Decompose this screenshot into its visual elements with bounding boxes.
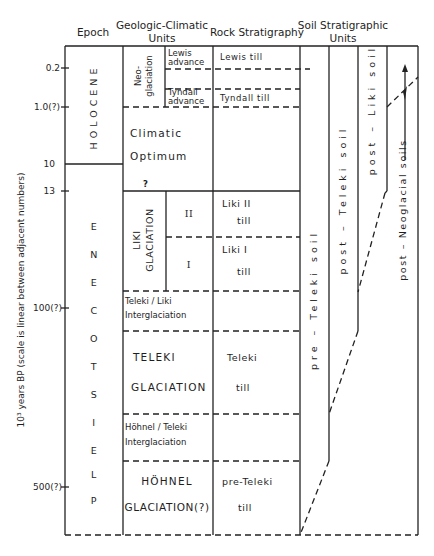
svg-text:I: I — [92, 417, 95, 428]
hohnel-teleki-2: Interglaciation — [125, 437, 186, 447]
liki-glaciation-2: GLACIATION — [144, 208, 155, 272]
question-mark: ? — [143, 179, 148, 189]
header-epoch: Epoch — [77, 26, 109, 38]
hohnel-teleki-1: Höhnel / Teleki — [125, 422, 187, 432]
hohnel-glaciation-2: GLACIATION(?) — [124, 501, 209, 513]
svg-text:L: L — [91, 469, 97, 480]
epoch-pleistocene: E N E C O T S I E L P — [90, 221, 98, 506]
teleki-glaciation-1: TELEKI — [132, 351, 176, 363]
tick-500: 500(?) — [33, 482, 62, 492]
tick-13: 13 — [44, 186, 55, 196]
svg-text:N: N — [90, 249, 98, 260]
liki-ii-till-2: till — [237, 215, 251, 226]
liki-glaciation-1: LIKI — [131, 230, 142, 250]
neo-line1: Neo- — [133, 66, 143, 86]
post-neoglacial-soils: post – Neoglacial soils — [397, 139, 408, 281]
svg-text:T: T — [90, 361, 97, 372]
teleki-liki-2: Interglaciation — [125, 310, 186, 320]
pre-teleki-till-1: pre-Teleki — [222, 476, 273, 487]
svg-text:E: E — [91, 445, 98, 456]
svg-text:S: S — [91, 389, 98, 400]
y-axis-label: 10³ years BP (scale is linear between ad… — [16, 173, 26, 428]
tick-10: 10 — [44, 159, 56, 169]
svg-text:C: C — [90, 305, 97, 316]
svg-text:O: O — [90, 333, 98, 344]
liki-i: I — [187, 259, 191, 270]
header-soil-2: Units — [330, 32, 357, 44]
header-soil-1: Soil Stratigraphic — [298, 19, 388, 31]
lewis-till: Lewis till — [220, 52, 263, 62]
tick-100: 100(?) — [33, 303, 62, 313]
lewis-advance-2: advance — [168, 57, 204, 67]
hohnel-glaciation-1: HÖHNEL — [141, 475, 193, 487]
post-liki-soil: post – Liki soil — [366, 45, 377, 175]
svg-text:E: E — [91, 277, 98, 288]
pre-teleki-till-2: till — [238, 502, 252, 513]
tyndall-till: Tyndall till — [219, 93, 270, 103]
liki-i-till-1: Liki I — [222, 244, 248, 255]
climatic-optimum-1: Climatic — [130, 127, 182, 139]
liki-ii-till-1: Liki II — [222, 198, 251, 209]
teleki-till-2: till — [236, 382, 250, 393]
header-rock-stratigraphy: Rock Stratigraphy — [210, 26, 304, 38]
liki-ii: II — [185, 208, 194, 219]
pre-teleki-soil: pre – Teleki soil — [308, 230, 319, 370]
liki-i-till-2: till — [237, 266, 251, 277]
header-geologic-climatic-1: Geologic-Climatic — [116, 19, 208, 31]
tick-0-2: 0.2 — [46, 63, 60, 73]
post-teleki-soil: post – Teleki soil — [337, 125, 348, 274]
climatic-optimum-2: Optimum — [130, 150, 187, 162]
neo-line2: glaciation — [144, 55, 154, 97]
stratigraphy-diagram: Epoch Geologic-Climatic Units Rock Strat… — [0, 0, 434, 556]
tick-1-0: 1.0(?) — [34, 102, 60, 112]
svg-text:E: E — [91, 221, 98, 232]
tyndall-advance-2: advance — [168, 96, 204, 106]
teleki-liki-1: Teleki / Liki — [124, 296, 172, 306]
teleki-glaciation-2: GLACIATION — [131, 381, 207, 393]
svg-text:P: P — [91, 495, 97, 506]
epoch-holocene: HOLOCENE — [88, 65, 99, 150]
header-geologic-climatic-2: Units — [149, 32, 176, 44]
teleki-till-1: Teleki — [226, 352, 257, 363]
